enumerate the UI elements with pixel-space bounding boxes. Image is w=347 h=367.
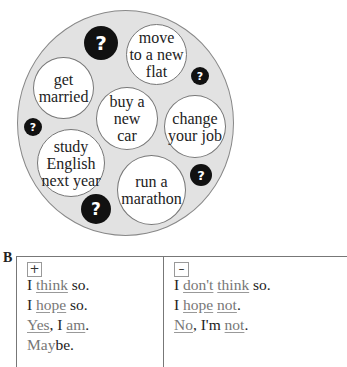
section-label: B: [3, 250, 12, 266]
question-mark-icon: ?: [190, 164, 212, 186]
bubble-get-married: getmarried: [33, 57, 94, 119]
phrase: I think so.: [27, 276, 89, 294]
question-mark-icon: ?: [24, 118, 42, 136]
phrase: I hope not.: [174, 296, 241, 314]
bubble-run-marathon: run amarathon: [117, 155, 186, 225]
phrase: I hope so.: [27, 296, 88, 314]
phrase: Maybe.: [27, 336, 74, 354]
phrase: No, I'm not.: [174, 316, 248, 334]
question-mark-icon: ?: [81, 194, 111, 224]
question-mark-icon: ?: [191, 67, 209, 85]
bubble-change-job: changeyour job: [164, 95, 226, 158]
plus-icon: +: [27, 262, 42, 277]
negative-column: – I don't think so. I hope not. No, I'm …: [164, 257, 344, 367]
bubble-move-flat: moveto a newflat: [126, 24, 187, 85]
question-mark-icon: ?: [84, 26, 118, 60]
bubble-buy-car: buy anewcar: [96, 87, 158, 150]
bubble-study-english: studyEnglishnext year: [37, 129, 105, 197]
phrase: Yes, I am.: [27, 316, 89, 334]
minus-icon: –: [174, 262, 189, 277]
phrase: I don't think so.: [174, 276, 271, 294]
positive-column: + I think so. I hope so. Yes, I am. Mayb…: [17, 257, 164, 367]
answers-table: + I think so. I hope so. Yes, I am. Mayb…: [16, 256, 347, 367]
